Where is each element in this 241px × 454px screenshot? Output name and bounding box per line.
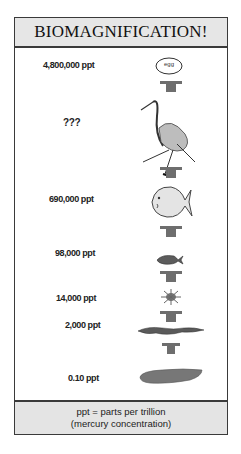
up-arrow-icon bbox=[160, 224, 182, 238]
footer-definition: ppt = parts per trillion bbox=[15, 406, 227, 418]
footer-note: (mercury concentration) bbox=[15, 418, 227, 430]
level-value-small-fish: 98,000 ppt bbox=[55, 248, 95, 258]
up-arrow-icon bbox=[160, 165, 182, 179]
heron-icon bbox=[137, 76, 197, 176]
large-fish-icon bbox=[149, 184, 193, 220]
level-value-zooplankton: 14,000 ppt bbox=[56, 293, 96, 303]
diagram-footer: ppt = parts per trillion (mercury concen… bbox=[15, 400, 227, 434]
level-value-large-fish: 690,000 ppt bbox=[49, 194, 94, 204]
diagram-header: BIOMAGNIFICATION! bbox=[15, 18, 227, 48]
level-value-water: 0.10 ppt bbox=[68, 373, 99, 383]
up-arrow-icon bbox=[160, 309, 182, 323]
diagram-title: BIOMAGNIFICATION! bbox=[34, 22, 207, 41]
small-fish-icon bbox=[156, 252, 184, 264]
egg-label: egg bbox=[154, 61, 184, 67]
egg-icon: egg bbox=[154, 56, 184, 76]
water-icon bbox=[138, 367, 204, 385]
level-value-egg: 4,800,000 ppt bbox=[43, 60, 94, 70]
algae-icon bbox=[138, 323, 204, 335]
up-arrow-icon bbox=[160, 269, 182, 283]
zooplankton-icon bbox=[160, 288, 182, 306]
up-arrow-icon bbox=[162, 341, 180, 355]
level-value-heron: ??? bbox=[63, 117, 80, 128]
biomagnification-diagram: BIOMAGNIFICATION! 4,800,000 ppt ??? 690,… bbox=[14, 17, 228, 435]
level-value-algae: 2,000 ppt bbox=[65, 320, 100, 330]
